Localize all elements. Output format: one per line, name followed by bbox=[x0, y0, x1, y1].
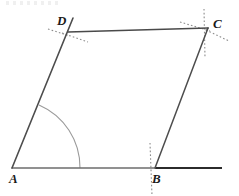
arc-mark-C-vertical bbox=[204, 9, 205, 58]
side-DA bbox=[12, 18, 73, 168]
vertex-label-D: D bbox=[57, 14, 66, 27]
vertex-label-A: A bbox=[9, 172, 18, 185]
arc-mark-C-lower-right bbox=[206, 30, 229, 41]
parallelogram-sides-group bbox=[12, 18, 208, 168]
diagram-canvas: A B C D bbox=[0, 0, 239, 196]
angle-arc-A bbox=[39, 105, 80, 168]
arc-mark-C-upper-left bbox=[180, 22, 210, 31]
arc-mark-B-vertical bbox=[150, 143, 152, 196]
vertex-label-C: C bbox=[213, 17, 222, 30]
parallelogram-figure bbox=[0, 0, 239, 196]
side-BC bbox=[155, 28, 208, 168]
vertex-label-B: B bbox=[152, 172, 161, 185]
side-CD bbox=[68, 28, 208, 32]
